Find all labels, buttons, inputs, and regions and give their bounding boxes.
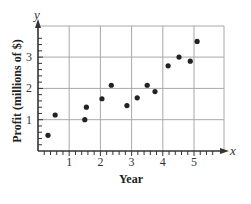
data-point — [135, 95, 140, 100]
y-axis-title: Profit (millions of $) — [10, 39, 24, 142]
data-point — [99, 96, 104, 101]
y-tick-label: 3 — [26, 50, 32, 64]
x-tick-label: 5 — [191, 155, 197, 169]
scatter-chart: 12345123 x y Year Profit (millions of $) — [0, 0, 251, 204]
x-axis-variable: x — [229, 143, 236, 158]
y-tick-label: 1 — [26, 113, 32, 127]
data-point — [124, 103, 129, 108]
data-point — [84, 105, 89, 110]
grid-lines — [38, 26, 224, 151]
data-point — [166, 63, 171, 68]
y-tick-label: 2 — [26, 81, 32, 95]
x-tick-label: 1 — [66, 155, 72, 169]
x-axis-title: Year — [119, 172, 144, 186]
data-point — [152, 89, 157, 94]
x-tick-label: 4 — [160, 155, 166, 169]
data-point — [188, 59, 193, 64]
y-axis-variable: y — [32, 7, 40, 22]
data-point — [195, 39, 200, 44]
data-point — [176, 55, 181, 60]
data-point — [109, 83, 114, 88]
data-point — [53, 112, 58, 117]
data-point — [45, 133, 50, 138]
data-point — [82, 117, 87, 122]
data-point — [145, 83, 150, 88]
x-tick-label: 3 — [129, 155, 135, 169]
x-tick-label: 2 — [97, 155, 103, 169]
tick-marks — [38, 38, 213, 156]
